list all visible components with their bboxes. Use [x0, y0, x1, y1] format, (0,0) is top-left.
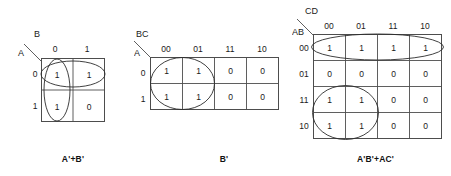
kmap-4var-cell-r3c3: 0: [423, 121, 428, 131]
kmap-2var-row-variable-label: A: [18, 48, 24, 58]
kmap-4var-col-header-0: 00: [324, 21, 334, 31]
kmap-4var-row-variable-label: AB: [292, 27, 304, 37]
kmap-3var-cell-r1c3: 0: [260, 92, 265, 102]
kmap-4var-row-header-3: 10: [299, 121, 309, 131]
kmap-4var-col-header-3: 10: [420, 21, 430, 31]
kmap-3var-cell-r0c0: 1: [164, 66, 169, 76]
kmap-2var-caption: A'+B': [0, 154, 146, 164]
kmap-4var-col-header-1: 01: [356, 21, 366, 31]
kmap-4var-cell-r0c0: 1: [327, 43, 332, 53]
kmap-2var-col-header-0: 0: [53, 44, 58, 54]
kmap-4var-cell-r0c1: 1: [359, 43, 364, 53]
kmap-4var-row-header-1: 01: [299, 69, 309, 79]
kmap-4var-cell-r3c2: 0: [391, 121, 396, 131]
kmap-4var-row-header-0: 00: [299, 43, 309, 53]
kmap-3var-col-header-0: 00: [161, 44, 171, 54]
kmap-2var-col-variable-label: B: [34, 29, 40, 39]
kmap-4var-figure: CD AB 00 01 11 10 00 01 11 10 1 1 1 1 0 …: [292, 0, 450, 148]
kmap-2var-diagram: B A 0 1 0 1 1 1 1 0: [14, 20, 124, 128]
kmap-3var-cell-r1c1: 1: [196, 92, 201, 102]
kmap-4var-row-header-2: 11: [300, 95, 309, 105]
kmap-3var-col-header-2: 11: [226, 44, 235, 54]
kmap-4var-cell-r2c2: 0: [391, 95, 396, 105]
kmap-3var-cell-r1c0: 1: [164, 92, 169, 102]
kmap-3var-row-header-1: 1: [141, 94, 146, 104]
kmap-2var-col-header-1: 1: [85, 44, 90, 54]
axis-divider-slash: [24, 44, 42, 62]
kmap-4var-cell-r1c2: 0: [391, 69, 396, 79]
kmap-3var-cell-r0c2: 0: [228, 66, 233, 76]
kmap-4var-caption: A'B'+AC': [300, 154, 451, 164]
kmap-4var-cell-r0c2: 1: [391, 43, 396, 53]
kmap-3var-cell-r1c2: 0: [228, 92, 233, 102]
kmap-4var-cell-r1c0: 0: [327, 69, 332, 79]
kmap-4var-cell-r3c0: 1: [327, 121, 332, 131]
kmap-4var-col-variable-label: CD: [305, 6, 318, 16]
kmap-4var-cell-r1c3: 0: [423, 69, 428, 79]
kmap-3var-col-header-3: 10: [257, 44, 267, 54]
kmap-3var-figure: BC A 00 01 11 10 0 1 1 1 0 0 1 1 0 0: [134, 20, 290, 118]
kmap-3var-row-header-0: 0: [141, 68, 146, 78]
kmap-2var-figure: B A 0 1 0 1 1 1 1 0: [14, 20, 124, 128]
kmap-2var-cell-r0c1: 1: [87, 70, 92, 80]
kmap-2var-cell-r0c0: 1: [55, 70, 60, 80]
kmap-4var-cell-r0c3: 1: [423, 43, 428, 53]
kmap-4var-cell-r1c1: 0: [359, 69, 364, 79]
kmap-2var-cell-r1c0: 1: [55, 102, 60, 112]
kmap-4var-cell-r2c3: 0: [423, 95, 428, 105]
kmap-3var-col-header-1: 01: [193, 44, 203, 54]
kmap-3var-caption: B': [146, 154, 302, 164]
kmap-4var-diagram: CD AB 00 01 11 10 00 01 11 10 1 1 1 1 0 …: [292, 0, 450, 148]
kmap-2var-row-header-0: 0: [33, 69, 38, 79]
kmap-4var-col-header-2: 11: [389, 21, 398, 31]
kmap-3var-col-variable-label: BC: [136, 29, 149, 39]
kmap-4var-cell-r3c1: 1: [359, 121, 364, 131]
kmap-3var-diagram: BC A 00 01 11 10 0 1 1 1 0 0 1 1 0 0: [134, 20, 290, 118]
kmap-3var-cell-r0c1: 1: [196, 66, 201, 76]
kmap-4var-cell-r2c1: 1: [359, 95, 364, 105]
kmap-4var-cell-r2c0: 1: [327, 95, 332, 105]
kmap-3var-cell-r0c3: 0: [260, 66, 265, 76]
kmap-3var-row-variable-label: A: [134, 48, 140, 58]
kmap-2var-row-header-1: 1: [33, 101, 38, 111]
kmap-2var-cell-r1c1: 0: [87, 102, 92, 112]
